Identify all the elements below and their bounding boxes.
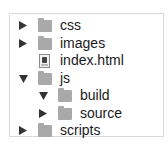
tree-item-label: scripts xyxy=(60,122,100,139)
tree-item-js[interactable]: js xyxy=(18,70,70,87)
disclosure-collapsed-icon[interactable] xyxy=(18,35,28,52)
tree-item-source[interactable]: source xyxy=(38,105,122,122)
disclosure-collapsed-icon[interactable] xyxy=(18,122,28,139)
tree-item-build[interactable]: build xyxy=(38,87,110,104)
disclosure-expanded-icon[interactable] xyxy=(18,70,28,87)
folder-icon xyxy=(38,125,52,137)
tree-item-label: css xyxy=(60,17,81,34)
tree-item-label: index.html xyxy=(60,52,124,69)
tree-item-scripts[interactable]: scripts xyxy=(18,122,100,139)
folder-icon xyxy=(38,38,52,50)
tree-item-css[interactable]: css xyxy=(18,17,81,34)
html-file-icon xyxy=(39,54,50,68)
folder-icon xyxy=(38,20,52,32)
folder-icon xyxy=(38,73,52,85)
tree-item-images[interactable]: images xyxy=(18,35,105,52)
disclosure-expanded-icon[interactable] xyxy=(38,87,48,104)
tree-item-label: js xyxy=(60,70,70,87)
folder-icon xyxy=(58,90,72,102)
tree-item-label: images xyxy=(60,35,105,52)
folder-icon xyxy=(58,108,72,120)
tree-item-label: source xyxy=(80,105,122,122)
tree-item-index-html[interactable]: index.html xyxy=(18,52,124,69)
disclosure-collapsed-icon[interactable] xyxy=(38,105,48,122)
disclosure-collapsed-icon[interactable] xyxy=(18,17,28,34)
tree-item-label: build xyxy=(80,87,110,104)
file-tree: css images index.html js build source xyxy=(9,13,164,137)
